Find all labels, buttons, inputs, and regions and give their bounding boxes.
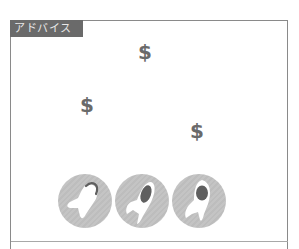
divider-line [11,241,288,242]
dollar-icon: $ [138,42,152,62]
rocket-upright-icon [172,174,226,228]
dollar-icon: $ [190,121,204,141]
dollar-icon: $ [80,95,94,115]
panel-label: アドバイス [10,20,83,37]
rocket-icon [115,174,169,228]
rocket-launch-icon [58,174,112,228]
